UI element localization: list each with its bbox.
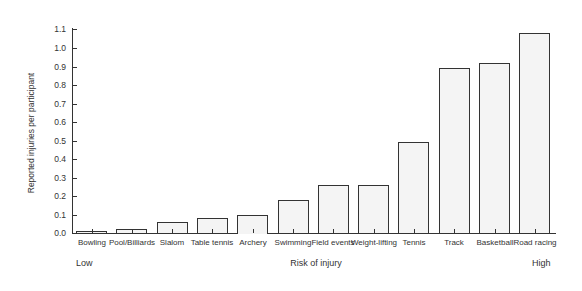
y-tick: [72, 104, 77, 105]
y-tick: [72, 196, 77, 197]
x-tick: [454, 229, 455, 233]
y-axis-line: [72, 28, 73, 234]
x-tick: [172, 229, 173, 233]
x-axis-label: Risk of injury: [256, 258, 376, 268]
bar: [358, 185, 389, 233]
x-tick: [333, 229, 334, 233]
y-tick-label: 0.5: [44, 136, 66, 146]
x-tick: [253, 229, 254, 233]
y-tick-label: 1.0: [44, 43, 66, 53]
y-tick-label: 0.8: [44, 80, 66, 90]
high-label: High: [532, 258, 551, 268]
bar: [318, 185, 349, 233]
y-tick-label: 1.1: [44, 24, 66, 34]
y-tick: [72, 67, 77, 68]
x-tick: [495, 229, 496, 233]
x-axis-line: [72, 233, 556, 234]
bar: [519, 33, 550, 233]
y-tick-label: 0.0: [44, 228, 66, 238]
y-tick: [72, 122, 77, 123]
y-tick-label: 0.4: [44, 154, 66, 164]
y-tick-label: 0.6: [44, 117, 66, 127]
x-tick: [293, 229, 294, 233]
y-tick: [72, 233, 77, 234]
x-tick: [414, 229, 415, 233]
y-tick: [72, 85, 77, 86]
y-tick: [72, 178, 77, 179]
bar: [479, 63, 510, 233]
x-tick: [374, 229, 375, 233]
y-tick-label: 0.3: [44, 173, 66, 183]
y-tick: [72, 159, 77, 160]
y-tick: [72, 29, 77, 30]
y-tick-label: 0.7: [44, 99, 66, 109]
bar: [398, 142, 429, 233]
x-tick-label: Road racing: [505, 238, 565, 247]
bar: [439, 68, 470, 233]
y-tick-label: 0.2: [44, 191, 66, 201]
x-tick: [92, 229, 93, 233]
y-axis-label: Reported injuries per participant: [26, 48, 36, 218]
x-tick: [212, 229, 213, 233]
x-tick: [535, 229, 536, 233]
y-tick-label: 0.9: [44, 62, 66, 72]
y-tick-label: 0.1: [44, 210, 66, 220]
y-tick: [72, 141, 77, 142]
low-label: Low: [76, 258, 93, 268]
y-tick: [72, 48, 77, 49]
x-tick: [132, 229, 133, 233]
y-tick: [72, 215, 77, 216]
